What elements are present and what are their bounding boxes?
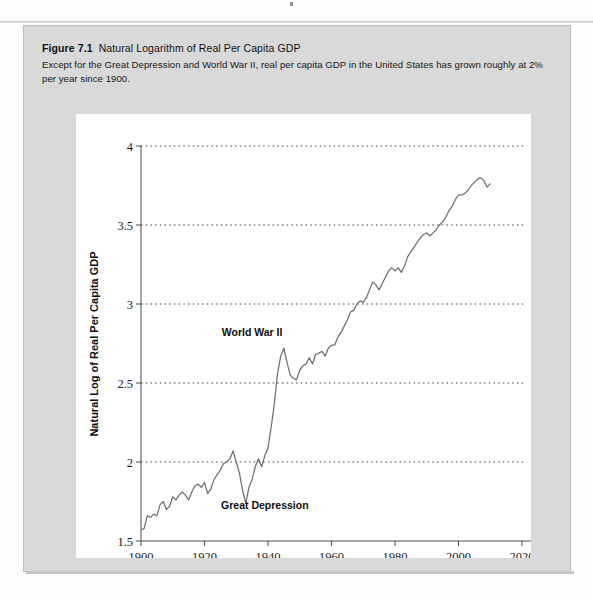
- x-tick-label: 2020: [510, 550, 532, 558]
- page-top-rule: [0, 20, 593, 23]
- chart-annotation: World War II: [222, 326, 283, 338]
- chart-annotations: World War IIGreat Depression: [221, 326, 309, 512]
- gdp-series-line: [141, 178, 490, 530]
- x-axis-ticks: 1900192019401960198020002020: [129, 541, 532, 558]
- plot-panel: 1.522.533.54 190019201940196019802000202…: [76, 114, 531, 558]
- y-tick-label: 3: [127, 298, 133, 312]
- y-tick-label: 1.5: [117, 535, 133, 549]
- figure-title-line: Figure 7.1 Natural Logarithm of Real Per…: [42, 41, 554, 55]
- figure-label: Figure 7.1: [42, 42, 93, 54]
- figure-title: Natural Logarithm of Real Per Capita GDP: [99, 42, 301, 54]
- chart-annotation: Great Depression: [221, 499, 309, 511]
- gridlines: [141, 146, 524, 462]
- y-tick-label: 4: [127, 140, 134, 154]
- figure-card: Figure 7.1 Natural Logarithm of Real Per…: [23, 25, 571, 572]
- page-speck-mark: [290, 2, 293, 6]
- x-tick-label: 1900: [129, 550, 154, 558]
- y-axis-ticks: 1.522.533.54: [117, 140, 141, 549]
- y-tick-label: 3.5: [117, 219, 133, 233]
- x-tick-label: 1920: [192, 550, 217, 558]
- x-tick-label: 1980: [383, 550, 408, 558]
- scanned-page: Figure 7.1 Natural Logarithm of Real Per…: [0, 0, 593, 600]
- x-tick-label: 1940: [256, 550, 281, 558]
- y-tick-label: 2.5: [117, 377, 133, 391]
- x-tick-label: 1960: [319, 550, 344, 558]
- line-chart: 1.522.533.54 190019201940196019802000202…: [76, 114, 531, 558]
- figure-caption-text: Except for the Great Depression and Worl…: [42, 58, 554, 85]
- figure-caption-block: Figure 7.1 Natural Logarithm of Real Per…: [42, 41, 554, 85]
- x-tick-label: 2000: [446, 550, 471, 558]
- y-tick-label: 2: [127, 456, 133, 470]
- y-axis-title: Natural Log of Real Per Capita GDP: [88, 251, 100, 436]
